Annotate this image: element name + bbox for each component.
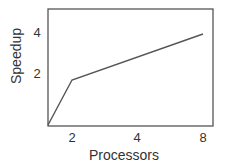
- x-axis-label: Processors: [89, 147, 159, 163]
- plot-frame: [48, 9, 213, 126]
- x-tick-4: 4: [133, 130, 140, 145]
- x-tick-8: 8: [199, 130, 206, 145]
- y-tick-4: 4: [33, 25, 40, 40]
- y-axis-label: Speedup: [8, 28, 24, 84]
- y-tick-2: 2: [33, 66, 40, 81]
- x-tick-2: 2: [68, 130, 75, 145]
- speedup-chart: 4 2 2 4 8 Processors Speedup: [0, 0, 226, 168]
- speedup-line: [48, 34, 203, 125]
